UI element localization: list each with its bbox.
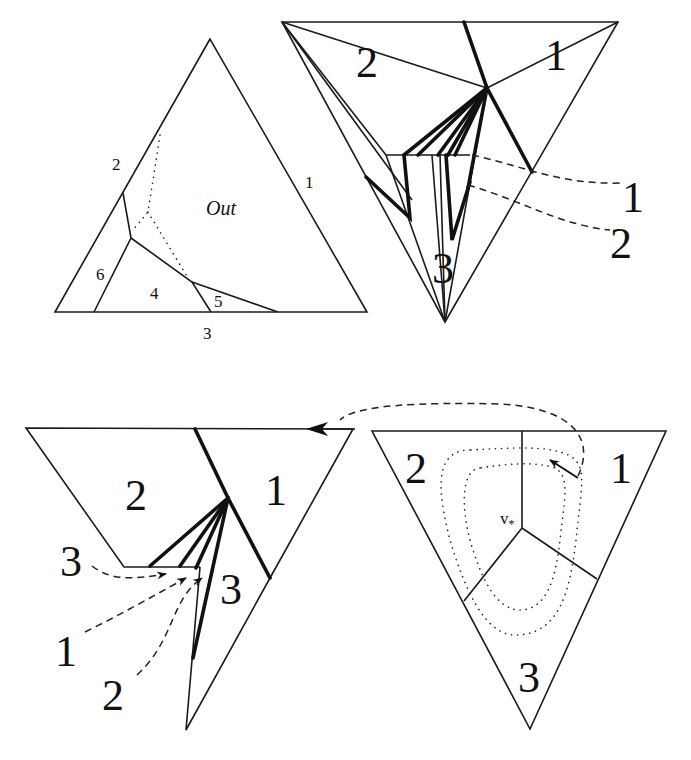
thick-v-right [446,155,470,240]
panel-bottom-right: 2 1 3 v* [372,431,666,729]
label-region-3: 3 [518,653,540,702]
label-region-2: 2 [112,155,121,174]
callout-label-2: 2 [102,671,124,720]
panel-top-left: Out 1 2 3 4 5 6 [55,39,367,343]
callout-label-3: 3 [60,537,82,586]
loop-direction-arrow [550,460,578,478]
label-region-2: 2 [405,444,427,493]
label-region-3: 3 [432,244,454,293]
boundary-5 [192,282,278,312]
label-region-4: 4 [150,284,159,303]
label-region-1: 1 [305,173,314,192]
label-region-1: 1 [265,466,287,515]
callout-line-2 [468,185,610,230]
dotted-path-b [148,212,188,278]
figure-canvas: Out 1 2 3 4 5 6 2 [0,0,691,760]
callout-label-1: 1 [622,173,644,222]
label-out: Out [206,197,236,219]
label-region-3: 3 [220,565,242,614]
label-region-6: 6 [96,265,105,284]
label-region-2: 2 [356,38,378,87]
boundary-4 [131,238,211,312]
thick-boundary [195,429,270,578]
panel-top-right: 2 1 3 1 2 [282,22,644,322]
label-region-1: 1 [610,444,632,493]
label-region-2: 2 [125,471,147,520]
label-region-5: 5 [214,292,223,311]
vertex-label-subscript: * [509,517,515,531]
label-region-1: 1 [545,31,567,80]
callout-label-2: 2 [610,219,632,268]
callout-line-1 [472,155,620,183]
panel-bottom-left: 2 1 3 3 1 2 [26,428,353,730]
boundary-1-3 [522,528,597,579]
thick-v-left [366,155,410,218]
vertex-label-v: v* [500,509,515,531]
label-region-3: 3 [203,324,212,343]
thick-fan-3 [196,498,228,568]
callout-label-1: 1 [55,627,77,676]
thin-fan-1 [386,155,445,322]
boundary-2-3 [464,528,522,601]
